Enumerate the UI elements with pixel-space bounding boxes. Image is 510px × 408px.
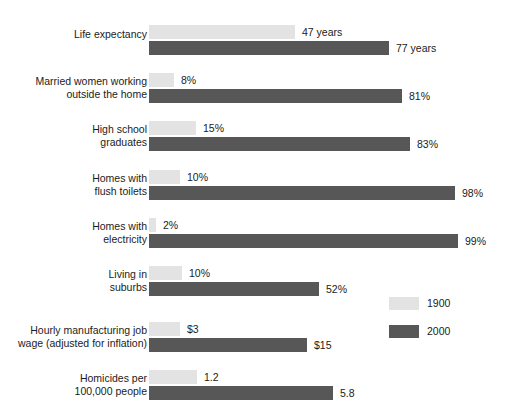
bar-value-2000: 99%	[465, 234, 486, 248]
bar-1900	[149, 25, 295, 39]
bar-1900	[149, 266, 182, 280]
legend-swatch-2000	[389, 325, 419, 338]
bar-1900	[149, 121, 196, 135]
bar-value-2000: 98%	[462, 186, 483, 200]
bar-value-1900: 2%	[163, 218, 178, 232]
bar-2000	[149, 186, 455, 200]
bar-1900	[149, 322, 180, 336]
bar-2000	[149, 282, 319, 296]
bar-1900	[149, 170, 180, 184]
row-label: Homes with flush toilets	[0, 172, 147, 197]
bar-1900	[149, 73, 174, 87]
bar-2000	[149, 338, 307, 352]
bar-value-2000: $15	[314, 338, 332, 352]
legend-label-1900: 1900	[427, 297, 450, 310]
bar-value-2000: 52%	[326, 282, 347, 296]
row-label: Hourly manufacturing job wage (adjusted …	[0, 324, 147, 349]
bar-value-2000: 5.8	[340, 386, 355, 400]
bar-2000	[149, 386, 333, 400]
row-label: Married women working outside the home	[0, 75, 147, 100]
bar-2000	[149, 89, 402, 103]
row-label: Life expectancy	[0, 28, 147, 41]
bar-2000	[149, 137, 410, 151]
legend-swatch-1900	[389, 297, 419, 310]
row-label: Living in suburbs	[0, 268, 147, 293]
row-label: Homicides per 100,000 people	[0, 372, 147, 397]
comparison-bar-chart: Life expectancy 47 years 77 years Marrie…	[0, 0, 510, 408]
bar-value-2000: 77 years	[396, 41, 436, 55]
bar-value-1900: 10%	[187, 170, 208, 184]
bar-2000	[149, 234, 458, 248]
bar-value-1900: 1.2	[204, 370, 219, 384]
bar-value-1900: 15%	[203, 121, 224, 135]
bar-value-1900: 8%	[181, 73, 196, 87]
bar-1900	[149, 218, 156, 232]
bar-value-2000: 81%	[409, 89, 430, 103]
legend-label-2000: 2000	[427, 325, 450, 338]
bar-2000	[149, 41, 389, 55]
bar-value-1900: $3	[187, 322, 199, 336]
row-label: High school graduates	[0, 123, 147, 148]
bar-value-1900: 47 years	[302, 25, 342, 39]
bar-value-1900: 10%	[189, 266, 210, 280]
bar-1900	[149, 370, 197, 384]
bar-value-2000: 83%	[417, 137, 438, 151]
row-label: Homes with electricity	[0, 220, 147, 245]
